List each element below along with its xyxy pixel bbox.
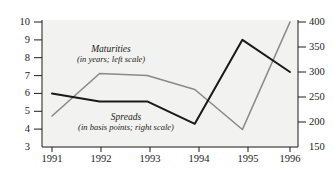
left-tick-label-9: 9 <box>8 35 30 46</box>
right-tick-label-200: 200 <box>309 117 334 128</box>
x-tick-label-1991: 1991 <box>32 154 72 165</box>
right-axis-ticks <box>298 22 306 122</box>
chart-canvas <box>0 0 334 173</box>
maturities-annotation-subtitle: (in years; left scale) <box>55 55 167 65</box>
left-tick-label-3: 3 <box>8 142 30 153</box>
left-tick-label-4: 4 <box>8 124 30 135</box>
left-tick-label-5: 5 <box>8 106 30 117</box>
x-tick-label-1994: 1994 <box>179 154 219 165</box>
right-tick-label-300: 300 <box>309 67 334 78</box>
right-tick-label-150: 150 <box>309 142 334 153</box>
spreads-annotation: Spreads (in basis points; right scale) <box>58 112 194 133</box>
right-tick-label-250: 250 <box>309 92 334 103</box>
dual-axis-line-chart: 10 9 8 7 6 5 4 3 400 350 300 250 200 150… <box>0 0 334 173</box>
x-tick-label-1992: 1992 <box>81 154 121 165</box>
x-axis-ticks <box>52 147 290 152</box>
spreads-annotation-subtitle: (in basis points; right scale) <box>58 123 194 133</box>
maturities-annotation: Maturities (in years; left scale) <box>55 44 167 65</box>
x-tick-label-1996: 1996 <box>270 154 310 165</box>
left-tick-label-10: 10 <box>8 17 30 28</box>
right-tick-label-350: 350 <box>309 42 334 53</box>
right-tick-label-400: 400 <box>309 17 334 28</box>
x-tick-label-1993: 1993 <box>130 154 170 165</box>
left-axis-ticks <box>34 22 42 129</box>
left-tick-label-6: 6 <box>8 88 30 99</box>
left-tick-label-8: 8 <box>8 53 30 64</box>
x-tick-label-1995: 1995 <box>228 154 268 165</box>
left-tick-label-7: 7 <box>8 71 30 82</box>
